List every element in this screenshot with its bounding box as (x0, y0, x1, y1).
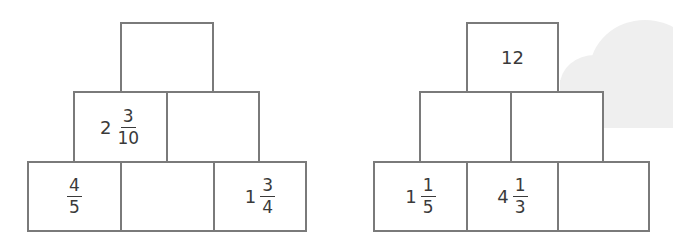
pyramid-cell-left-mid-1[interactable]: 2 3 10 (73, 91, 168, 163)
fraction: 1 3 (513, 177, 528, 216)
pyramid-cell-left-top[interactable] (120, 22, 214, 93)
mixed-number: 4 1 3 (497, 177, 527, 216)
pyramid-cell-right-mid-2[interactable] (510, 91, 604, 163)
fraction: 3 4 (260, 177, 275, 216)
pyramid-cell-left-bottom-1[interactable]: 4 5 (27, 161, 122, 232)
pyramid-cell-right-top[interactable]: 12 (466, 22, 559, 93)
pyramid-cell-right-bottom-1[interactable]: 1 1 5 (373, 161, 468, 232)
mixed-number: 1 1 5 (405, 177, 435, 216)
fraction: 4 5 (67, 177, 82, 216)
pyramid-cell-right-bottom-2[interactable]: 4 1 3 (466, 161, 559, 232)
pyramid-cell-left-bottom-2[interactable] (120, 161, 215, 232)
pyramid-cell-left-bottom-3[interactable]: 1 3 4 (213, 161, 307, 232)
pyramid-cell-right-bottom-3[interactable] (557, 161, 650, 232)
mixed-number: 1 3 4 (245, 177, 275, 216)
fraction: 1 5 (421, 177, 436, 216)
mixed-number: 2 3 10 (100, 108, 141, 147)
pyramid-cell-right-mid-1[interactable] (419, 91, 512, 163)
pyramid-cell-left-mid-2[interactable] (166, 91, 260, 163)
fraction: 3 10 (115, 108, 141, 147)
